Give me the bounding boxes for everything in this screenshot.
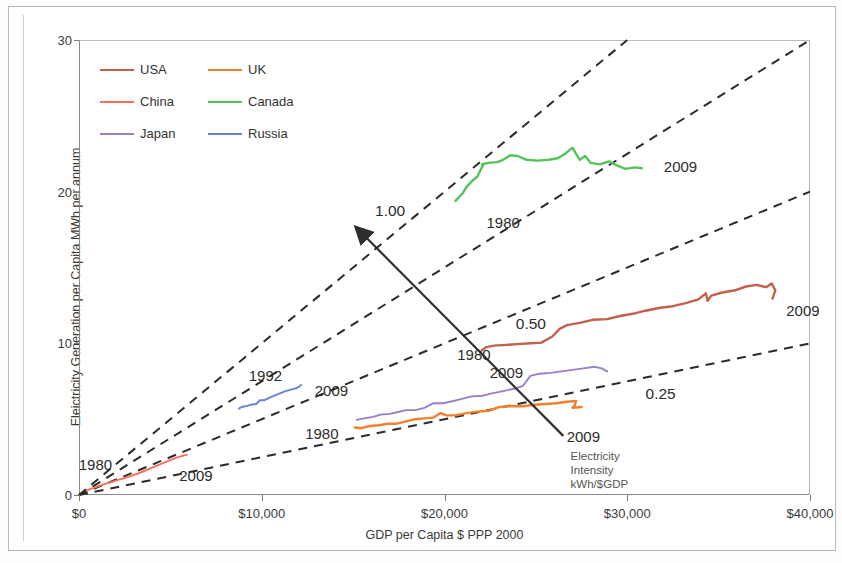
x-tick-mark bbox=[810, 495, 811, 501]
legend-item-japan: Japan bbox=[100, 126, 194, 141]
x-tick-mark bbox=[262, 495, 263, 501]
chart-legend: USAUKChinaCanadaJapanRussia bbox=[100, 62, 310, 141]
china-start-label: 1980 bbox=[79, 455, 112, 472]
legend-item-russia: Russia bbox=[208, 126, 302, 141]
legend-swatch-uk bbox=[208, 69, 242, 71]
legend-swatch-russia bbox=[208, 133, 242, 135]
russia-end-label: 2009 bbox=[315, 381, 348, 398]
y-tick-mark bbox=[74, 40, 79, 41]
usa-end-label: 2009 bbox=[786, 301, 819, 318]
uk-japan-start-label: 1980 bbox=[305, 424, 338, 441]
ratio-label-0-25: 0.25 bbox=[646, 385, 676, 403]
legend-item-china: China bbox=[100, 94, 194, 109]
x-tick-mark bbox=[445, 495, 446, 501]
x-axis-title: GDP per Capita $ PPP 2000 bbox=[79, 528, 810, 542]
legend-label-uk: UK bbox=[248, 62, 266, 77]
y-tick-label-0: 0 bbox=[65, 488, 72, 503]
data-series-group bbox=[87, 148, 776, 491]
legend-label-japan: Japan bbox=[140, 126, 175, 141]
y-tick-mark bbox=[74, 192, 79, 193]
russia-start-label: 1992 bbox=[249, 367, 282, 384]
x-tick-label-1: $10,000 bbox=[238, 506, 285, 521]
caption-intensity-line3: kWh/$GDP bbox=[571, 477, 629, 491]
canada-end-label: 2009 bbox=[664, 157, 697, 174]
screenshot-page: Eleictricity Generation per Capita MWh p… bbox=[0, 0, 842, 563]
legend-label-china: China bbox=[140, 94, 174, 109]
legend-item-canada: Canada bbox=[208, 94, 302, 109]
legend-label-canada: Canada bbox=[248, 94, 294, 109]
legend-swatch-canada bbox=[208, 101, 242, 103]
x-tick-label-0: $0 bbox=[72, 506, 86, 521]
usa-start-label: 1980 bbox=[457, 345, 490, 362]
x-tick-label-2: $20,000 bbox=[421, 506, 468, 521]
x-tick-mark bbox=[79, 495, 80, 501]
ratio-label-0-50: 0.50 bbox=[516, 315, 546, 333]
canada-start-label: 1980 bbox=[487, 214, 520, 231]
x-tick-label-4: $40,000 bbox=[787, 506, 834, 521]
y-axis-title-holder: Eleictricity Generation per Capita MWh p… bbox=[46, 30, 60, 500]
y-tick-label-10: 10 bbox=[58, 336, 72, 351]
y-tick-label-20: 20 bbox=[58, 184, 72, 199]
uk-end-label: 2009 bbox=[567, 427, 600, 444]
series-line-canada bbox=[456, 148, 642, 201]
japan-end-label: 2009 bbox=[490, 364, 523, 381]
electricity-intensity-caption: ElectricityIntensitykWh/$GDP bbox=[571, 449, 629, 491]
legend-swatch-china bbox=[100, 101, 134, 103]
ratio-label-1-00: 1.00 bbox=[375, 202, 405, 220]
x-tick-label-3: $30,000 bbox=[604, 506, 651, 521]
legend-label-usa: USA bbox=[140, 62, 167, 77]
y-tick-mark bbox=[74, 343, 79, 344]
legend-item-usa: USA bbox=[100, 62, 194, 77]
legend-item-uk: UK bbox=[208, 62, 302, 77]
y-tick-label-30: 30 bbox=[58, 33, 72, 48]
legend-swatch-japan bbox=[100, 133, 134, 135]
reference-ray-0.50 bbox=[79, 192, 810, 495]
legend-label-russia: Russia bbox=[248, 126, 288, 141]
legend-swatch-usa bbox=[100, 69, 134, 71]
caption-intensity-line1: Electricity bbox=[571, 449, 629, 463]
x-tick-mark bbox=[627, 495, 628, 501]
china-end-label: 2009 bbox=[179, 466, 212, 483]
caption-intensity-line2: Intensity bbox=[571, 463, 629, 477]
